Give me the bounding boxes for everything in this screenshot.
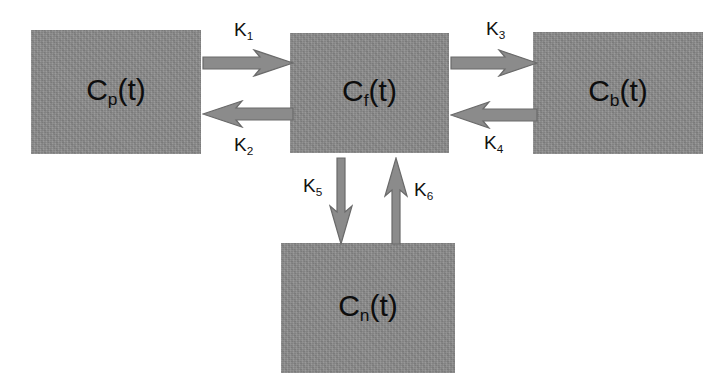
compartment-plasma-label: Cp(t): [86, 75, 146, 108]
arrow-k2: [202, 100, 294, 128]
arrow-k4: [450, 101, 538, 129]
rate-label-k5: K5: [303, 176, 322, 198]
rate-label-k2: K2: [234, 135, 253, 157]
compartment-free-label: Cf(t): [342, 76, 397, 109]
compartment-bound: Cb(t): [533, 32, 703, 154]
rate-label-k1: K1: [234, 20, 253, 42]
compartment-nonspecific-label: Cn(t): [338, 291, 398, 324]
compartment-bound-label: Cb(t): [588, 76, 648, 109]
arrow-k1: [202, 49, 294, 77]
diagram-canvas: Cp(t) Cf(t) Cb(t) Cn(t): [0, 0, 724, 375]
arrow-k5: [329, 157, 353, 245]
arrow-k3: [450, 49, 538, 77]
compartment-free: Cf(t): [290, 33, 449, 153]
compartment-nonspecific: Cn(t): [281, 243, 455, 373]
rate-label-k4: K4: [484, 133, 503, 155]
rate-label-k3: K3: [486, 19, 505, 41]
rate-label-k6: K6: [414, 180, 433, 202]
compartment-plasma: Cp(t): [31, 30, 201, 154]
arrow-k6: [384, 157, 408, 245]
